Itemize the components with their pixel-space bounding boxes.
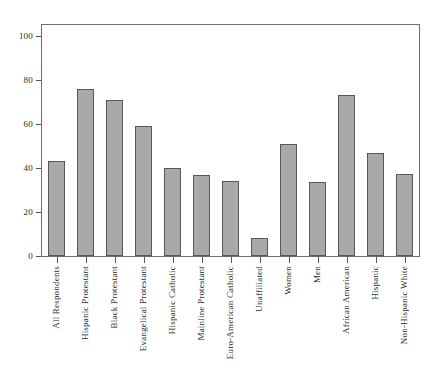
x-axis-tick-mark (231, 257, 232, 263)
x-axis-tick-mark (57, 257, 58, 263)
y-axis-tick-label: 40 (24, 163, 33, 172)
bar (48, 161, 66, 256)
x-axis-tick-label: Non-Hispanic White (400, 266, 409, 344)
y-axis-tick-label: 80 (24, 75, 33, 84)
x-axis-tick-label: Hispanic Catholic (168, 266, 177, 334)
bar (222, 181, 240, 256)
x-axis-tick-label: Women (284, 266, 293, 295)
x-axis-tick-label: All Respondents (52, 266, 61, 329)
x-axis-tick-mark (376, 257, 377, 263)
x-axis-tick-label: African American (342, 266, 351, 334)
y-axis-tick-label: 100 (19, 31, 33, 40)
x-axis-tick-mark (289, 257, 290, 263)
x-axis-tick-label: Unaffiliated (255, 266, 264, 312)
y-axis-tick-label: 20 (24, 207, 33, 216)
bar (367, 153, 385, 256)
x-axis-tick-mark (86, 257, 87, 263)
x-axis-tick-label: Euro-American Catholic (226, 266, 235, 359)
x-axis-tick-mark (202, 257, 203, 263)
x-axis-tick-mark (347, 257, 348, 263)
x-axis-tick-mark (260, 257, 261, 263)
bars-layer (42, 25, 419, 256)
x-axis-tick-label: Black Protestant (110, 266, 119, 328)
x-axis-tick-label: Hispanic (371, 266, 380, 300)
x-axis-tick-mark (318, 257, 319, 263)
bar (135, 126, 153, 256)
x-axis-tick-mark (405, 257, 406, 263)
x-axis-tick-label: Mainline Protestant (197, 266, 206, 341)
bar (396, 174, 414, 257)
bar (309, 182, 327, 256)
bar (164, 168, 182, 256)
x-axis-tick-label: Hispanic Protestant (81, 266, 90, 340)
bar-chart: 020406080100 All RespondentsHispanic Pro… (0, 0, 435, 379)
x-axis-tick-label: Men (313, 266, 322, 283)
y-axis: 020406080100 (0, 0, 41, 379)
y-axis-tick-label: 60 (24, 119, 33, 128)
bar (280, 144, 298, 256)
x-axis-tick-mark (115, 257, 116, 263)
y-axis-tick-label: 0 (28, 251, 33, 260)
bar (77, 89, 95, 256)
x-axis-labels: All RespondentsHispanic ProtestantBlack … (42, 266, 419, 376)
bar (193, 175, 211, 256)
x-axis-tick-label: Evangelical Protestant (139, 266, 148, 351)
x-axis-ticks (42, 257, 419, 263)
x-axis-tick-mark (173, 257, 174, 263)
x-axis-tick-mark (144, 257, 145, 263)
bar (106, 100, 124, 256)
bar (338, 95, 356, 256)
bar (251, 238, 269, 256)
